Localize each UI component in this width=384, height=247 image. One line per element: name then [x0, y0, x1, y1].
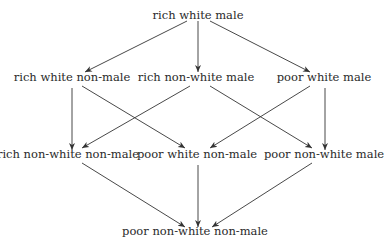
node-rich-non-white-non-male: rich non-white non-male: [0, 147, 139, 161]
arrow-edge: [82, 163, 185, 227]
node-rich-non-white-male: rich non-white male: [138, 70, 255, 84]
arrow-edge: [210, 21, 310, 72]
arrow-edge: [212, 163, 312, 227]
arrow-edge: [85, 21, 187, 72]
node-rich-white-male: rich white male: [153, 8, 244, 22]
node-rich-white-non-male: rich white non-male: [14, 70, 131, 84]
edges-layer: [0, 0, 384, 247]
node-poor-non-white-non-male: poor non-white non-male: [122, 224, 268, 238]
node-poor-non-white-male: poor non-white male: [264, 147, 384, 161]
lattice-diagram: rich white male rich white non-male rich…: [0, 0, 384, 247]
node-poor-white-non-male: poor white non-male: [137, 147, 257, 161]
node-poor-white-male: poor white male: [277, 70, 372, 84]
